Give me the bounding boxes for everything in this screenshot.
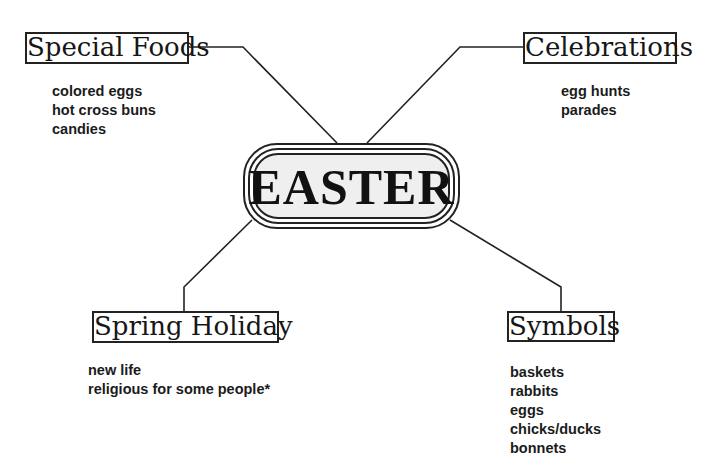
branch-label: Spring Holiday [94, 311, 293, 341]
list-item: baskets [510, 363, 601, 382]
branch-label: Special Foods [27, 32, 210, 62]
branch-symbols: Symbols [507, 311, 615, 342]
branch-items-special-foods: colored eggs hot cross buns candies [52, 82, 156, 139]
connector-symbols [450, 220, 561, 311]
center-node: EASTER [243, 143, 460, 229]
list-item: chicks/ducks [510, 420, 601, 439]
list-item: parades [561, 101, 630, 120]
list-item: colored eggs [52, 82, 156, 101]
connector-spring-holiday [184, 220, 252, 311]
branch-celebrations: Celebrations [523, 32, 677, 64]
branch-spring-holiday: Spring Holiday [92, 311, 279, 343]
list-item: egg hunts [561, 82, 630, 101]
branch-items-celebrations: egg hunts parades [561, 82, 630, 120]
branch-items-spring-holiday: new life religious for some people* [88, 361, 270, 399]
center-node-inner: EASTER [253, 153, 450, 219]
branch-label: Symbols [509, 311, 620, 341]
center-title: EASTER [248, 162, 454, 212]
list-item: new life [88, 361, 270, 380]
branch-items-symbols: baskets rabbits eggs chicks/ducks bonnet… [510, 363, 601, 458]
branch-special-foods: Special Foods [25, 32, 189, 64]
connector-special-foods [188, 47, 337, 143]
branch-label: Celebrations [525, 32, 693, 62]
list-item: hot cross buns [52, 101, 156, 120]
list-item: candies [52, 120, 156, 139]
list-item: rabbits [510, 382, 601, 401]
connector-celebrations [367, 47, 523, 143]
list-item: eggs [510, 401, 601, 420]
list-item: bonnets [510, 439, 601, 458]
list-item: religious for some people* [88, 380, 270, 399]
